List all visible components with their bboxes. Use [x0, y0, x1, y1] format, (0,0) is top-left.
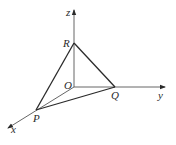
coordinate-diagram: z y x R O Q P: [0, 0, 176, 145]
label-r: R: [62, 37, 70, 49]
edge-rq: [74, 43, 115, 87]
label-q: Q: [111, 89, 119, 101]
label-o: O: [64, 79, 72, 91]
label-z: z: [65, 6, 71, 18]
label-p: P: [32, 112, 40, 124]
edge-pq: [36, 87, 115, 110]
x-axis: [8, 87, 74, 128]
label-x: x: [10, 123, 16, 135]
label-y: y: [157, 89, 163, 101]
